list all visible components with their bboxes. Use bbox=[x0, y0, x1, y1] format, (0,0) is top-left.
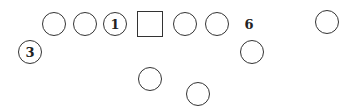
square-marker bbox=[137, 11, 163, 37]
circle-marker bbox=[73, 12, 97, 36]
circle-marker bbox=[138, 67, 162, 91]
circle-marker bbox=[240, 40, 264, 64]
circle-marker bbox=[42, 12, 66, 36]
circle-marker bbox=[186, 82, 210, 106]
circle-marker: 3 bbox=[18, 40, 42, 64]
circle-marker: 1 bbox=[103, 12, 127, 36]
circle-marker bbox=[315, 10, 339, 34]
position-label: 6 bbox=[244, 17, 253, 32]
circle-marker bbox=[173, 12, 197, 36]
circle-marker bbox=[205, 12, 229, 36]
